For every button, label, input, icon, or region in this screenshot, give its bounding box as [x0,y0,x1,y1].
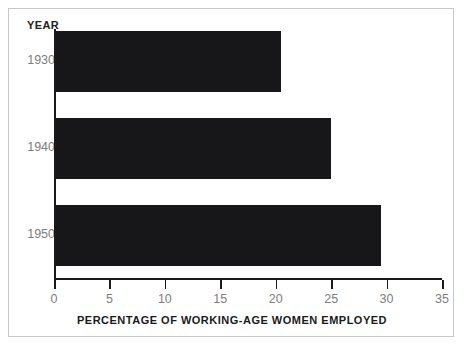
x-tick-label-30: 30 [367,292,407,306]
bar-1930 [54,31,281,92]
bar-series [54,9,455,338]
y-tick-label-1950: 1950 [17,227,55,241]
x-tick-label-25: 25 [311,292,351,306]
x-tick-35 [442,280,444,289]
x-tick-25 [331,280,333,289]
chart-plot-area: YEAR 193019401950 05101520253035 PERCENT… [9,9,455,338]
y-tick-label-1930: 1930 [17,53,55,67]
x-axis-line [54,278,442,280]
x-axis-title: PERCENTAGE OF WORKING-AGE WOMEN EMPLOYED [9,314,455,326]
bar-1950 [54,205,381,266]
y-tick-label-1940: 1940 [17,140,55,154]
x-tick-label-15: 15 [200,292,240,306]
x-tick-label-35: 35 [422,292,462,306]
x-tick-15 [220,280,222,289]
x-tick-label-20: 20 [256,292,296,306]
y-axis-line [54,29,56,280]
x-tick-label-10: 10 [145,292,185,306]
x-tick-label-5: 5 [89,292,129,306]
x-tick-5 [109,280,111,289]
x-tick-0 [54,280,56,289]
x-tick-label-0: 0 [34,292,74,306]
x-tick-10 [165,280,167,289]
x-tick-20 [276,280,278,289]
x-tick-30 [387,280,389,289]
chart-frame: YEAR 193019401950 05101520253035 PERCENT… [8,8,454,337]
bar-1940 [54,118,331,179]
